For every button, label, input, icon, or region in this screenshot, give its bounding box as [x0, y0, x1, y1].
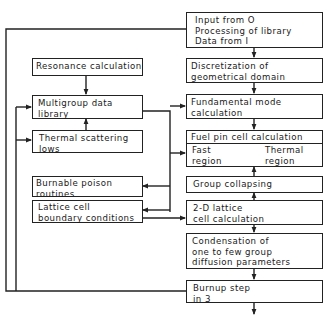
resonance-label: Resonance calculation	[36, 61, 139, 72]
burnable-poison-box: Burnable poison routines	[32, 176, 143, 197]
fast-region-label: region	[192, 156, 222, 167]
multigroup-box: Multigroup data library	[32, 95, 143, 119]
fundamental-mode-box: Fundamental mode calculation	[186, 94, 323, 119]
input-box: Input from O Processing of library Data …	[186, 12, 323, 48]
input-line-3: Data from I	[195, 36, 318, 47]
condensation-box: Condensation of one to few group diffusi…	[186, 233, 323, 269]
lattice-2d-line-2: cell calculation	[193, 214, 318, 225]
burnable-poison-line-2: routines	[36, 189, 139, 200]
input-line-2: Processing of library	[195, 26, 318, 37]
condensation-line-1: Condensation of	[192, 236, 318, 247]
discretization-line-2: geometrical domain	[191, 72, 318, 83]
condensation-line-3: diffusion parameters	[192, 257, 318, 268]
lattice-boundary-line-1: Lattice cell	[38, 202, 137, 213]
fundamental-line-1: Fundamental mode	[191, 97, 318, 108]
multigroup-line-2: library	[38, 109, 138, 120]
lattice-2d-box: 2-D lattice cell calculation	[186, 200, 323, 225]
multigroup-line-1: Multigroup data	[38, 98, 138, 109]
burnup-line-2: in 3	[193, 294, 318, 305]
lattice-boundary-line-2: boundary conditions	[38, 213, 137, 224]
discretization-box: Discretization of geometrical domain	[186, 58, 323, 83]
thermal-region: Thermal region	[265, 145, 304, 166]
thermal-scattering-line-1: Thermal scattering	[39, 133, 138, 144]
burnup-box: Burnup step in 3	[186, 280, 323, 303]
group-collapsing-label: Group collapsing	[193, 179, 318, 190]
fuel-pin-divider	[187, 143, 322, 144]
thermal-region-label: region	[265, 156, 304, 167]
condensation-line-2: one to few group	[192, 247, 318, 258]
thermal-label: Thermal	[265, 145, 304, 156]
discretization-line-1: Discretization of	[191, 61, 318, 72]
lattice-boundary-box: Lattice cell boundary conditions	[32, 200, 143, 223]
input-line-1: Input from O	[195, 15, 318, 26]
group-collapsing-box: Group collapsing	[186, 176, 323, 193]
thermal-scattering-line-2: lows	[39, 144, 138, 155]
burnable-poison-line-1: Burnable poison	[36, 178, 139, 189]
fast-region: Fast region	[192, 145, 222, 166]
lattice-2d-line-1: 2-D lattice	[193, 203, 318, 214]
fuel-pin-box: Fuel pin cell calculation Fast region Th…	[186, 130, 323, 167]
thermal-scattering-box: Thermal scattering lows	[32, 130, 143, 153]
fundamental-line-2: calculation	[191, 108, 318, 119]
burnup-line-1: Burnup step	[193, 283, 318, 294]
resonance-box: Resonance calculation	[32, 58, 143, 76]
fast-label: Fast	[192, 145, 222, 156]
fuel-pin-title: Fuel pin cell calculation	[187, 131, 322, 143]
